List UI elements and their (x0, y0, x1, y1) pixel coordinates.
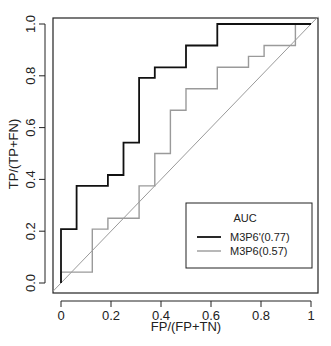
y-tick-label: 0.4 (23, 170, 38, 188)
y-axis: 0.00.20.40.60.81.0 TP/(TP+FN) (6, 15, 45, 292)
x-tick-label: 0.8 (252, 308, 270, 323)
legend-label-m3p6: M3P6(0.57) (230, 245, 287, 257)
legend: AUC M3P6'(0.77) M3P6(0.57) (186, 203, 312, 268)
y-tick-label: 0.8 (23, 67, 38, 85)
x-tick-label: 0 (57, 308, 64, 323)
y-tick-label: 0.0 (23, 274, 38, 292)
x-tick-label: 0.2 (102, 308, 120, 323)
y-tick-label: 1.0 (23, 15, 38, 33)
y-tick-label: 0.2 (23, 222, 38, 240)
legend-title: AUC (233, 212, 256, 224)
x-tick-label: 1 (307, 308, 314, 323)
roc-chart: 00.20.40.60.81 FP/(FP+TN) 0.00.20.40.60.… (0, 0, 331, 346)
x-axis: 00.20.40.60.81 FP/(FP+TN) (57, 301, 314, 334)
y-tick-label: 0.6 (23, 119, 38, 137)
x-axis-title: FP/(FP+TN) (151, 319, 221, 334)
y-axis-title: TP/(TP+FN) (6, 119, 21, 189)
legend-label-m3p6-prime: M3P6'(0.77) (230, 231, 290, 243)
